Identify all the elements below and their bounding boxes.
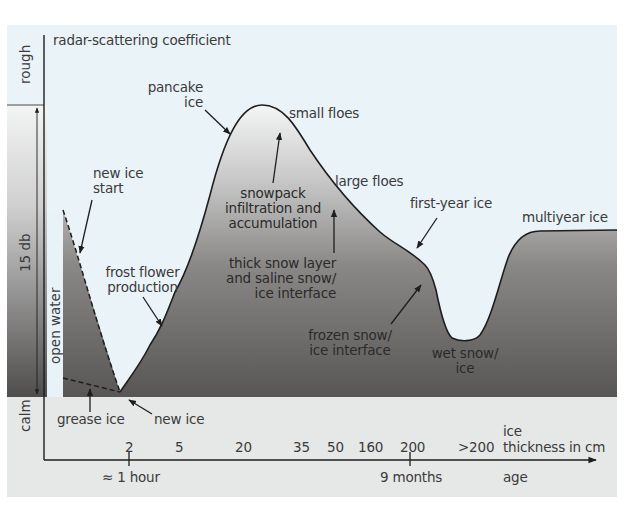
label-wet-snow: wet snow/ ice <box>425 346 505 376</box>
label-thick-snow: thick snow layer and saline snow/ ice in… <box>212 256 336 301</box>
open-water-label: open water <box>47 288 63 364</box>
label-multiyear-ice: multiyear ice <box>522 210 608 225</box>
label-frozen-snow: frozen snow/ ice interface <box>300 328 400 358</box>
tick-label-50: 50 <box>327 440 344 455</box>
label-new-ice: new ice <box>154 412 204 427</box>
calm-label: calm <box>17 399 33 432</box>
label-first-year-ice: first-year ice <box>410 196 492 211</box>
tick-label-200: 200 <box>400 440 425 455</box>
label-large-floes: large floes <box>335 174 403 189</box>
tick-label-over-200: >200 <box>458 440 494 455</box>
tick-label-35: 35 <box>293 440 310 455</box>
y-axis-title: radar-scattering coefficient <box>53 33 231 48</box>
x-axis-title-line1: ice <box>503 424 522 439</box>
range-15db-label: 15 db <box>17 233 33 272</box>
tick-label-160: 160 <box>358 440 383 455</box>
ice-radar-diagram: radar-scattering coefficient rough calm … <box>0 0 632 529</box>
age-tick-9-months: 9 months <box>380 470 442 485</box>
x-axis-title-line2: thickness in cm <box>503 440 605 455</box>
age-axis-title: age <box>503 470 528 485</box>
tick-label-2: 2 <box>125 440 133 455</box>
label-snowpack: snowpack infiltration and accumulation <box>218 186 328 231</box>
label-frost-flower: frost flower production <box>95 265 190 295</box>
tick-label-20: 20 <box>235 440 252 455</box>
rough-label: rough <box>17 45 33 84</box>
label-pancake-ice: pancake ice <box>143 80 203 110</box>
tick-label-5: 5 <box>175 440 183 455</box>
label-small-floes: small floes <box>289 106 359 121</box>
age-tick-1-hour: ≈ 1 hour <box>102 470 160 485</box>
label-new-ice-start: new ice start <box>93 166 143 196</box>
label-grease-ice: grease ice <box>57 412 125 427</box>
